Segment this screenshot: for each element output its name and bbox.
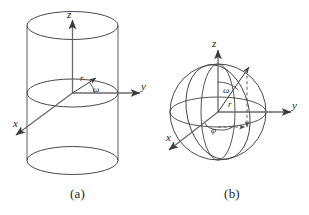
panel-a-y-axis-label: y bbox=[141, 81, 146, 92]
x-axis bbox=[16, 93, 73, 135]
cylinder-bottom-rim bbox=[27, 147, 118, 175]
panel-b-x-axis-label: x bbox=[166, 132, 171, 143]
panel-b-caption: (b) bbox=[155, 186, 309, 202]
panel-a-drawing bbox=[0, 0, 155, 215]
panel-b-z-axis-label: z bbox=[212, 38, 216, 49]
panel-a-x-axis-label: x bbox=[13, 118, 18, 129]
panel-b-drawing bbox=[155, 0, 309, 215]
panel-b-azimuth-angle-phi-label: φ bbox=[211, 126, 216, 135]
panel-b-radius-label: r bbox=[228, 100, 232, 109]
panel-a-caption: (a) bbox=[0, 186, 155, 202]
panel-b-y-axis-label: y bbox=[292, 100, 297, 111]
figure-root: z y x r ω (a) bbox=[0, 0, 309, 215]
panel-b-polar-angle-omega-label: ω bbox=[223, 86, 229, 95]
panel-a-z-axis-label: z bbox=[67, 9, 71, 20]
panel-a-angle-omega-label: ω bbox=[93, 85, 99, 94]
panel-a-cylindrical-coordinates: z y x r ω (a) bbox=[0, 0, 155, 215]
panel-b-spherical-coordinates: z y x ω r φ (b) bbox=[155, 0, 309, 215]
panel-a-radius-label: r bbox=[80, 74, 84, 83]
